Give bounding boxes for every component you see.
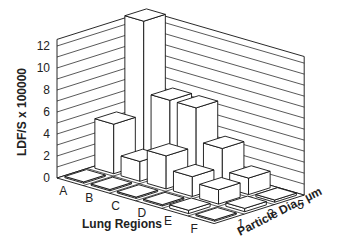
x-tick-label: F	[190, 222, 197, 236]
z-tick-label: 10	[37, 61, 51, 75]
x-tick-label: B	[85, 191, 93, 205]
x-tick-label: C	[111, 199, 120, 213]
z-tick-label: 8	[43, 83, 50, 97]
z-tick-label: 12	[37, 39, 51, 53]
z-tick-label: 6	[43, 105, 50, 119]
x-tick-label: E	[164, 214, 172, 228]
z-axis-title: LDF/S x 100000	[15, 68, 29, 156]
z-tick-label: 2	[43, 149, 50, 163]
z-tick-label: 4	[43, 127, 50, 141]
x-tick-label: A	[59, 184, 67, 198]
z-tick-label: 0	[43, 171, 50, 185]
z-axis-ticks: 024681012	[37, 39, 51, 185]
x-axis-title: Lung Regions	[82, 217, 162, 231]
bar-chart-3d: 024681012 ABCDEF 135 LDF/S x 100000 Lung…	[0, 0, 351, 245]
